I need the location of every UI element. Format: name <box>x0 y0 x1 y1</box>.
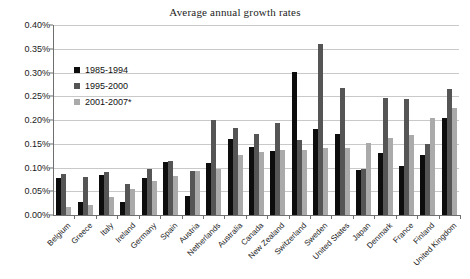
x-axis-category-label: France <box>391 221 415 245</box>
x-axis-tick <box>74 215 75 219</box>
x-axis-tick <box>331 215 332 219</box>
x-axis-tick <box>417 215 418 219</box>
legend-item[interactable]: 1985-1994 <box>74 62 132 77</box>
x-axis-category-label: Italy <box>99 221 116 238</box>
x-axis-tick <box>353 215 354 219</box>
legend-swatch-icon <box>74 99 80 105</box>
x-axis-tick <box>203 215 204 219</box>
x-axis-tick <box>267 215 268 219</box>
x-axis-tick <box>160 215 161 219</box>
x-axis-category-label: Belgium <box>46 221 73 248</box>
legend-item[interactable]: 1995-2000 <box>74 78 132 93</box>
x-axis-tick <box>224 215 225 219</box>
x-axis-tick <box>439 215 440 219</box>
x-axis-tick <box>310 215 311 219</box>
legend-label: 1985-1994 <box>85 65 128 75</box>
chart-legend: 1985-19941995-20002001-2007* <box>74 62 132 110</box>
legend-label: 1995-2000 <box>85 81 128 91</box>
x-axis-tick <box>117 215 118 219</box>
x-axis-labels: BelgiumGreeceItalyIrelandGermanySpainAus… <box>0 0 470 279</box>
x-axis-tick <box>374 215 375 219</box>
x-axis-tick <box>182 215 183 219</box>
legend-swatch-icon <box>74 67 80 73</box>
legend-item[interactable]: 2001-2007* <box>74 94 132 109</box>
legend-label: 2001-2007* <box>85 97 132 107</box>
x-axis-tick <box>139 215 140 219</box>
x-axis-tick <box>246 215 247 219</box>
x-axis-tick <box>96 215 97 219</box>
x-axis-tick <box>460 215 461 219</box>
x-axis-tick <box>396 215 397 219</box>
x-axis-tick <box>289 215 290 219</box>
chart-container: Average annual growth rates 0.40%0.35%0.… <box>0 0 470 279</box>
legend-swatch-icon <box>74 83 80 89</box>
x-axis-category-label: Greece <box>69 221 94 246</box>
